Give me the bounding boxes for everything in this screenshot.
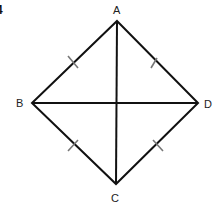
figure-number: 4 xyxy=(0,3,3,17)
rhombus-diagram: 4 A B D C xyxy=(0,0,218,208)
vertex-label-d: D xyxy=(204,98,212,110)
vertex-label-b: B xyxy=(16,97,23,109)
vertex-label-a: A xyxy=(113,4,121,16)
vertex-label-c: C xyxy=(111,192,119,204)
